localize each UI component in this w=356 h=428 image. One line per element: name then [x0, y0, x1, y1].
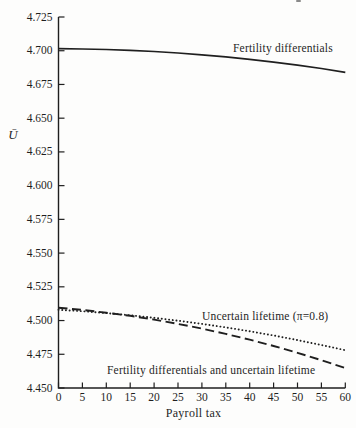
y-tick-label: 4.725 [13, 11, 53, 24]
x-tick-label: 50 [286, 391, 310, 404]
x-tick-label: 45 [262, 391, 286, 404]
y-tick-label: 4.650 [13, 112, 53, 125]
x-tick-label: 40 [238, 391, 262, 404]
x-tick-label: 35 [214, 391, 238, 404]
series-label-fertility-differentials: Fertility differentials [233, 42, 333, 55]
x-tick-label: 60 [333, 391, 356, 404]
y-tick-label: 4.550 [13, 247, 53, 260]
y-tick-label: 4.475 [13, 348, 53, 361]
x-tick-label: 5 [70, 391, 94, 404]
x-tick-label: 15 [118, 391, 142, 404]
x-tick-label: 25 [166, 391, 190, 404]
y-tick-label: 4.500 [13, 314, 53, 327]
x-tick-label: 10 [94, 391, 118, 404]
utility-vs-payroll-tax-chart: Ū Payroll tax Fertility differentials Un… [0, 0, 356, 428]
y-axis-title: Ū [4, 127, 22, 143]
axes-lines [59, 17, 346, 388]
series-label-fertility-and-uncertain-lifetime: Fertility differentials and uncertain li… [107, 364, 315, 377]
y-tick-label: 4.625 [13, 145, 53, 158]
series-label-uncertain-lifetime: Uncertain lifetime (π=0.8) [202, 310, 328, 323]
y-tick-label: 4.600 [13, 179, 53, 192]
x-tick-label: 20 [142, 391, 166, 404]
y-tick-label: 4.700 [13, 44, 53, 57]
y-tick-label: 4.525 [13, 280, 53, 293]
y-tick-label: 4.675 [13, 78, 53, 91]
x-tick-label: 55 [309, 391, 333, 404]
x-tick-label: 0 [47, 391, 71, 404]
y-tick-label: 4.575 [13, 213, 53, 226]
x-axis-title: Payroll tax [140, 406, 247, 421]
crop-artifact [296, 0, 301, 2]
x-tick-label: 30 [190, 391, 214, 404]
